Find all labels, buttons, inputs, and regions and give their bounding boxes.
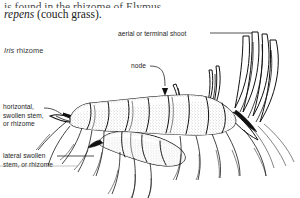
arrowhead-down-icon [162,88,168,96]
root-hairs-right [252,124,294,168]
rhizome-illustration [0,0,300,198]
leader-node [150,66,168,96]
figure-page: is found in the rhizome of Elymus repens… [0,0,300,198]
horizontal-rhizome [50,95,236,135]
aerial-shoot-leaves [229,32,278,140]
